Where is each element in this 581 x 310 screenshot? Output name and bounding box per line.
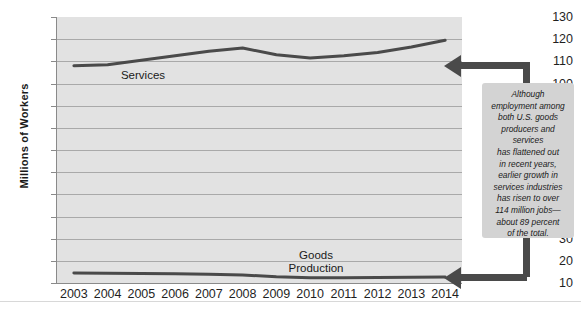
callout-line: producers and [487,124,569,136]
series-label-goods-line1: Goods [289,249,344,262]
callout-top-connector [461,62,527,69]
callout-line: services [487,135,569,147]
callout-line: has flattened out [487,147,569,159]
series-label-goods-production: GoodsProduction [289,249,344,275]
series-line [74,273,445,278]
callout-line: Although [487,89,569,101]
footer-rule [0,301,581,302]
callout-bottom-connector [461,274,527,281]
callout-line: has risen to over [487,193,569,205]
series-line [74,40,445,65]
callout-line: both U.S. goods [487,112,569,124]
callout-bottom-arrow-icon [444,267,461,289]
callout-line: services industries [487,182,569,194]
callout-top-arrow-icon [444,55,461,77]
series-label-goods-line2: Production [289,262,344,275]
series-label-services: Services [121,69,165,82]
callout-line: in recent years, [487,159,569,171]
callout-line: about 89 percent [487,217,569,229]
callout-line: earlier growth in [487,170,569,182]
callout-annotation: Althoughemployment amongboth U.S. goodsp… [482,83,574,238]
callout-line: 114 million jobs— [487,205,569,217]
chart-figure: Millions of Workers 13012011010090807060… [0,0,581,310]
callout-line: employment among [487,101,569,113]
callout-line: of the total. [487,228,569,240]
